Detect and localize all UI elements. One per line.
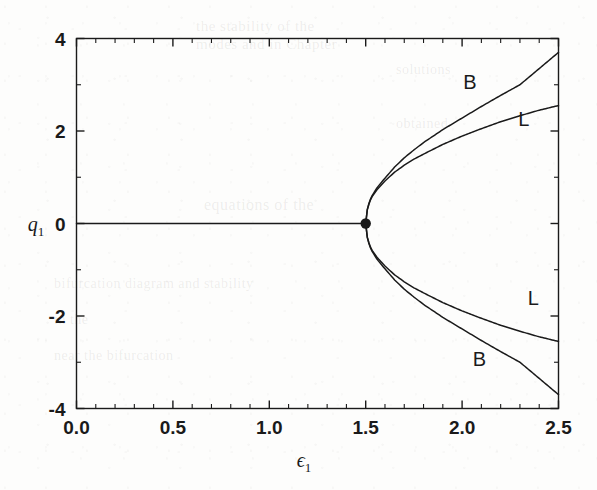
branch-label-L: L [528,287,539,309]
x-tick-label: 2.5 [545,417,572,438]
y-tick-label: 4 [55,29,66,50]
branch-label-B: B [473,348,486,370]
x-tick-label: 0.0 [63,417,89,438]
x-tick-label: 2.0 [449,417,475,438]
y-axis-tick-labels: -4-2024 [49,29,66,420]
plot-svg: 0.00.51.01.52.02.5 -4-2024 BLLB ϵ1q1 [0,0,597,490]
curve-B-upper [366,52,559,223]
x-tick-label: 0.5 [160,417,187,438]
x-tick-label: 1.0 [256,417,282,438]
y-tick-label: 0 [55,214,66,235]
x-axis-title: ϵ1 [297,449,312,475]
data-curves [77,52,559,394]
branch-label-L: L [518,108,529,130]
y-tick-label: -4 [49,399,66,420]
x-tick-label: 1.5 [352,417,379,438]
branch-label-B: B [463,71,476,93]
y-axis-title: q1 [28,213,45,239]
x-axis-tick-labels: 0.00.51.01.52.02.5 [63,417,572,438]
bifurcation-point-marker [361,218,371,228]
bifurcation-diagram-figure: 0.00.51.01.52.02.5 -4-2024 BLLB ϵ1q1 [0,0,597,490]
y-tick-label: 2 [55,121,66,142]
y-tick-label: -2 [49,306,66,327]
curve-L-upper [366,106,559,224]
bifurcation-point [361,218,371,228]
curve-L-lower [366,224,559,342]
